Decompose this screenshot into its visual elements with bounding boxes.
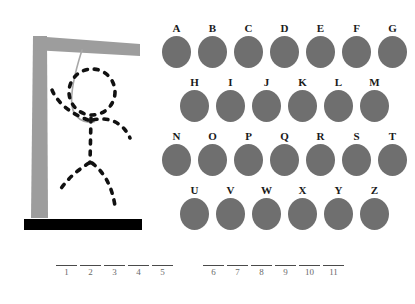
letter-key-n[interactable]: N (159, 130, 194, 182)
answer-blank[interactable]: 2 (80, 258, 101, 284)
letter-label: W (249, 184, 284, 197)
letter-disc[interactable] (306, 144, 335, 176)
letter-label: N (159, 130, 194, 143)
letter-disc[interactable] (378, 36, 407, 68)
answer-blank[interactable]: 7 (227, 258, 248, 284)
letter-disc[interactable] (288, 90, 317, 122)
letter-key-z[interactable]: Z (357, 184, 392, 236)
letter-disc[interactable] (216, 198, 245, 230)
letter-label: G (375, 22, 410, 35)
letter-key-j[interactable]: J (249, 76, 284, 128)
letter-key-h[interactable]: H (177, 76, 212, 128)
figure-left-leg (60, 163, 89, 190)
letter-disc[interactable] (360, 90, 389, 122)
letter-key-m[interactable]: M (357, 76, 392, 128)
figure-right-leg (92, 163, 115, 206)
letter-key-r[interactable]: R (303, 130, 338, 182)
letter-disc[interactable] (360, 198, 389, 230)
blank-number: 5 (152, 266, 173, 278)
letter-disc[interactable] (162, 144, 191, 176)
letter-disc[interactable] (378, 144, 407, 176)
letter-key-l[interactable]: L (321, 76, 356, 128)
letter-disc[interactable] (324, 90, 353, 122)
letter-key-f[interactable]: F (339, 22, 374, 74)
letter-label: K (285, 76, 320, 89)
letter-disc[interactable] (198, 144, 227, 176)
answer-blank[interactable]: 6 (203, 258, 224, 284)
answer-blank[interactable]: 8 (251, 258, 272, 284)
letter-key-p[interactable]: P (231, 130, 266, 182)
letter-disc[interactable] (252, 198, 281, 230)
letter-disc[interactable] (342, 144, 371, 176)
letter-label: Q (267, 130, 302, 143)
letter-label: C (231, 22, 266, 35)
letter-key-v[interactable]: V (213, 184, 248, 236)
letter-key-c[interactable]: C (231, 22, 266, 74)
letter-disc[interactable] (216, 90, 245, 122)
letter-key-e[interactable]: E (303, 22, 338, 74)
letter-disc[interactable] (270, 144, 299, 176)
letter-key-d[interactable]: D (267, 22, 302, 74)
gallows-beam (33, 36, 140, 56)
letter-key-i[interactable]: I (213, 76, 248, 128)
letter-key-u[interactable]: U (177, 184, 212, 236)
figure-body (90, 118, 91, 163)
letter-disc[interactable] (270, 36, 299, 68)
letter-disc[interactable] (252, 90, 281, 122)
letter-label: U (177, 184, 212, 197)
blank-number: 4 (128, 266, 149, 278)
answer-blanks: 1 2 3 4 5 6 (0, 258, 415, 286)
letter-disc[interactable] (234, 36, 263, 68)
letter-row: U V W X Y Z (177, 184, 393, 236)
letter-key-g[interactable]: G (375, 22, 410, 74)
answer-word-1: 1 2 3 4 5 (56, 258, 176, 284)
blank-number: 11 (323, 266, 344, 278)
figure-right-arm (93, 119, 130, 138)
letter-label: P (231, 130, 266, 143)
answer-blank[interactable]: 5 (152, 258, 173, 284)
letter-disc[interactable] (324, 198, 353, 230)
letter-disc[interactable] (180, 198, 209, 230)
letter-label: M (357, 76, 392, 89)
answer-blank[interactable]: 1 (56, 258, 77, 284)
gallows-post (31, 36, 48, 218)
letter-disc[interactable] (180, 90, 209, 122)
letter-label: S (339, 130, 374, 143)
blank-number: 1 (56, 266, 77, 278)
blank-number: 9 (275, 266, 296, 278)
gallows-drawing (0, 0, 155, 250)
letter-key-o[interactable]: O (195, 130, 230, 182)
hangman-game: A B C D E F G (0, 0, 415, 304)
letter-key-t[interactable]: T (375, 130, 410, 182)
answer-blank[interactable]: 11 (323, 258, 344, 284)
answer-blank[interactable]: 10 (299, 258, 320, 284)
letter-row: H I J K L M (177, 76, 393, 128)
letter-label: V (213, 184, 248, 197)
letter-label: E (303, 22, 338, 35)
answer-blank[interactable]: 4 (128, 258, 149, 284)
letter-key-s[interactable]: S (339, 130, 374, 182)
letter-key-w[interactable]: W (249, 184, 284, 236)
letter-key-y[interactable]: Y (321, 184, 356, 236)
letter-disc[interactable] (162, 36, 191, 68)
letter-key-k[interactable]: K (285, 76, 320, 128)
letter-label: R (303, 130, 338, 143)
letter-key-x[interactable]: X (285, 184, 320, 236)
letter-key-b[interactable]: B (195, 22, 230, 74)
figure-head (69, 69, 115, 115)
letter-disc[interactable] (234, 144, 263, 176)
letter-disc[interactable] (288, 198, 317, 230)
answer-blank[interactable]: 3 (104, 258, 125, 284)
letter-disc[interactable] (306, 36, 335, 68)
letter-disc[interactable] (198, 36, 227, 68)
letter-label: B (195, 22, 230, 35)
answer-blank[interactable]: 9 (275, 258, 296, 284)
blank-number: 2 (80, 266, 101, 278)
letter-disc[interactable] (342, 36, 371, 68)
letter-label: L (321, 76, 356, 89)
letter-key-q[interactable]: Q (267, 130, 302, 182)
letter-key-a[interactable]: A (159, 22, 194, 74)
letter-label: F (339, 22, 374, 35)
letter-label: A (159, 22, 194, 35)
gallows-area (0, 0, 155, 250)
